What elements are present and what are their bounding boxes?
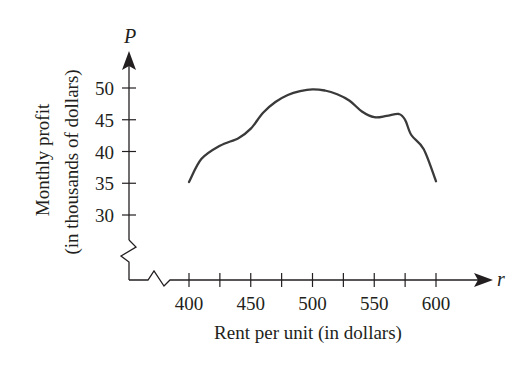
y-tick-label: 35 <box>95 173 114 194</box>
y-axis <box>121 66 136 280</box>
x-tick-label: 400 <box>175 293 204 314</box>
x-axis-title: Rent per unit (in dollars) <box>214 322 402 344</box>
x-axis-tick-labels: 400450500550600 <box>175 293 451 314</box>
x-tick-label: 500 <box>298 293 327 314</box>
profit-vs-rent-chart: 3035404550 400450500550600 P r Rent per … <box>0 0 528 367</box>
x-tick-label: 600 <box>422 293 451 314</box>
y-tick-label: 40 <box>95 142 114 163</box>
y-axis-variable: P <box>123 25 136 47</box>
y-axis-tick-labels: 3035404550 <box>95 78 114 226</box>
profit-curve <box>189 89 436 182</box>
x-tick-label: 550 <box>360 293 389 314</box>
y-tick-label: 45 <box>95 110 114 131</box>
x-axis-variable: r <box>497 268 505 290</box>
x-axis <box>129 271 478 286</box>
y-axis-title-line1: Monthly profit <box>32 103 53 216</box>
y-tick-label: 50 <box>95 78 114 99</box>
x-tick-label: 450 <box>237 293 266 314</box>
y-axis-title-line2: (in thousands of dollars) <box>61 69 83 254</box>
y-tick-label: 30 <box>95 205 114 226</box>
